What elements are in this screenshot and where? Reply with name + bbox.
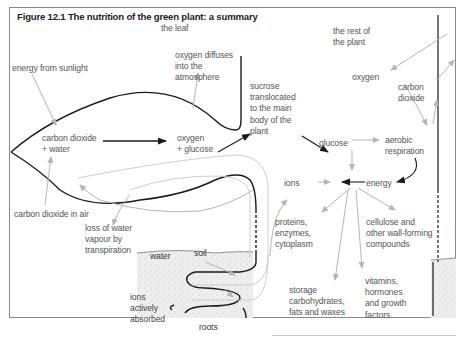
black-arrows (103, 134, 417, 200)
region-label-leaf: the leaf (161, 23, 188, 34)
label-proteins: proteins, enzymes, cytoplasm (275, 217, 313, 251)
label-vitamins: vitamins, hormones and growth factors (365, 276, 407, 321)
label-oxygen-glucose: oxygen + glucose (177, 133, 213, 155)
region-label-roots: roots (199, 322, 218, 333)
label-ions: ions (284, 178, 299, 189)
label-cellulose: cellulose and other wall-forming compoun… (366, 217, 433, 251)
label-storage: storage carbohydrates, fats and waxes (289, 285, 345, 319)
label-aerobic-respiration: aerobic respiration (385, 135, 424, 157)
label-oxygen: oxygen (352, 72, 379, 83)
label-carbon-dioxide-water: carbon dioxide + water (42, 133, 97, 155)
label-glucose: glucose (319, 138, 348, 149)
figure-title: Figure 12.1 The nutrition of the green p… (17, 11, 258, 22)
label-carbon-dioxide-in-air: carbon dioxide in air (14, 209, 89, 220)
label-carbon-dioxide: carbon dioxide (398, 82, 425, 104)
label-ions-actively-absorbed: ions actively absorbed (130, 292, 165, 326)
region-label-rest-of-plant: the rest of the plant (333, 26, 370, 48)
label-sucrose-translocated: sucrose translocated to the main body of… (250, 81, 296, 137)
label-energy: energy (366, 178, 392, 189)
label-loss-of-water-vapour: loss of water vapour by transpiration (85, 223, 132, 257)
label-energy-from-sunlight: energy from sunlight (12, 63, 88, 74)
label-oxygen-diffuses: oxygen diffuses into the atmosphere (175, 50, 233, 84)
label-water: water (150, 251, 171, 262)
region-label-soil: soil (194, 248, 207, 259)
bottom-rule (272, 335, 456, 336)
